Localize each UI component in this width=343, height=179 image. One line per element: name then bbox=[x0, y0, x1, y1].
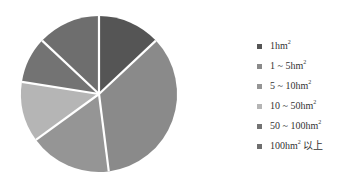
legend-item: 1hm2 bbox=[257, 36, 343, 56]
legend-item: 50 ~ 100hm2 bbox=[257, 116, 343, 136]
legend-label-superscript: 2 bbox=[303, 59, 306, 65]
legend-label-superscript: 2 bbox=[288, 39, 291, 45]
legend-item: 100hm2 以上 bbox=[257, 136, 343, 156]
pie-chart bbox=[0, 0, 200, 179]
legend-label: 5 ~ 10hm2 bbox=[270, 81, 311, 91]
legend-label-text: 10 ~ 50hm bbox=[270, 100, 313, 111]
legend-item: 10 ~ 50hm2 bbox=[257, 96, 343, 116]
legend-swatch-icon bbox=[257, 84, 262, 89]
legend-swatch-icon bbox=[257, 124, 262, 129]
legend-swatch-icon bbox=[257, 44, 262, 49]
legend-label-superscript: 2 bbox=[308, 79, 311, 85]
legend-item: 5 ~ 10hm2 bbox=[257, 76, 343, 96]
legend-label: 50 ~ 100hm2 bbox=[270, 121, 321, 131]
legend-label-text: 50 ~ 100hm bbox=[270, 120, 318, 131]
chart-legend: 1hm21 ~ 5hm25 ~ 10hm210 ~ 50hm250 ~ 100h… bbox=[257, 36, 343, 156]
legend-label: 1hm2 bbox=[270, 41, 291, 51]
legend-swatch-icon bbox=[257, 144, 262, 149]
legend-swatch-icon bbox=[257, 104, 262, 109]
legend-swatch-icon bbox=[257, 64, 262, 69]
legend-label-superscript: 2 bbox=[318, 119, 321, 125]
legend-label-text: 1 ~ 5hm bbox=[270, 60, 303, 71]
legend-label-superscript: 2 bbox=[313, 99, 316, 105]
legend-label-text: 1hm bbox=[270, 40, 288, 51]
legend-label-text: 100hm bbox=[270, 140, 298, 151]
pie-chart-graphic bbox=[0, 0, 200, 179]
legend-label-text: 5 ~ 10hm bbox=[270, 80, 308, 91]
legend-label: 100hm2 以上 bbox=[270, 141, 323, 151]
legend-label: 1 ~ 5hm2 bbox=[270, 61, 306, 71]
legend-label: 10 ~ 50hm2 bbox=[270, 101, 316, 111]
legend-item: 1 ~ 5hm2 bbox=[257, 56, 343, 76]
legend-label-suffix: 以上 bbox=[301, 140, 324, 151]
